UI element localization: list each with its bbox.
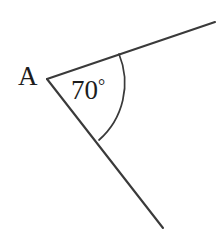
degree-symbol-icon: ° [98,76,105,96]
angle-measure-label: 70° [71,77,105,104]
vertex-label-a: A [18,63,38,90]
angle-measure-value: 70 [71,75,98,105]
upper-ray [47,22,215,79]
angle-figure-svg [0,0,223,235]
angle-diagram-canvas: A 70° [0,0,223,235]
